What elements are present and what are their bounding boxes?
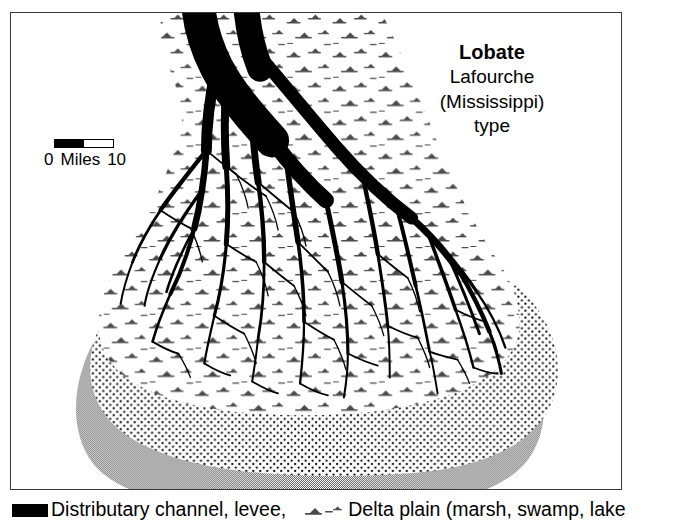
scale-bar: 0 Miles 10 [44, 139, 164, 170]
legend: Distributary channel, levee, Delta plain… [0, 497, 676, 523]
legend-swatch-marsh-icon [304, 502, 342, 518]
legend-label-delta-plain: Delta plain (marsh, swamp, lake [348, 500, 625, 520]
legend-item-delta-plain: Delta plain (marsh, swamp, lake [304, 500, 625, 520]
scale-bar-graphic [54, 139, 114, 148]
legend-swatch-channel-icon [12, 504, 48, 517]
map-canvas [11, 13, 621, 489]
delta-diagram-figure: Lobate Lafourche (Mississippi) type 0 Mi… [0, 0, 676, 523]
legend-item-distributary-channel: Distributary channel, levee, [12, 500, 286, 520]
scale-unit-label: Miles [60, 150, 100, 170]
scale-min-label: 0 [44, 150, 53, 170]
map-frame: Lobate Lafourche (Mississippi) type 0 Mi… [10, 12, 622, 490]
legend-label-channel: Distributary channel, levee, [51, 500, 286, 520]
scale-bar-labels: 0 Miles 10 [44, 150, 136, 170]
delta-plain-area [98, 13, 519, 415]
marsh-symbol-icon [304, 502, 342, 518]
scale-max-label: 10 [107, 150, 126, 170]
